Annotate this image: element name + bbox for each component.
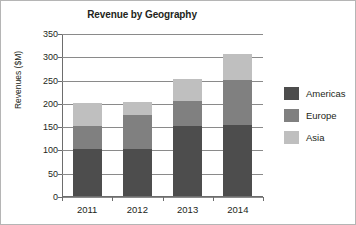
- y-axis-line: [62, 34, 63, 197]
- legend-swatch-icon: [284, 87, 299, 100]
- chart-legend: AmericasEuropeAsia: [284, 82, 346, 148]
- bar-segment-europe[interactable]: [173, 101, 202, 127]
- bar-segment-americas[interactable]: [173, 126, 202, 196]
- chart-figure: Revenue by Geography Revenues ($M) 05010…: [0, 0, 356, 225]
- x-tick-mark: [62, 197, 63, 201]
- x-tick-mark: [112, 197, 113, 201]
- bar-segment-asia[interactable]: [223, 54, 252, 79]
- y-axis-title: Revenues ($M): [13, 25, 23, 135]
- bar-segment-asia[interactable]: [73, 103, 102, 126]
- y-tick-mark: [58, 34, 62, 35]
- y-tick-mark: [58, 57, 62, 58]
- y-tick-label: 100: [43, 145, 58, 155]
- bar-segment-europe[interactable]: [123, 115, 152, 150]
- legend-label: Europe: [306, 110, 337, 121]
- y-tick-mark: [58, 174, 62, 175]
- y-tick-label: 250: [43, 76, 58, 86]
- x-tick-mark: [213, 197, 214, 201]
- legend-item-europe[interactable]: Europe: [284, 104, 346, 126]
- bar-segment-europe[interactable]: [73, 126, 102, 149]
- legend-label: Asia: [306, 132, 324, 143]
- bar-segment-americas[interactable]: [73, 149, 102, 196]
- legend-item-americas[interactable]: Americas: [284, 82, 346, 104]
- bar-stack[interactable]: [223, 33, 252, 196]
- legend-swatch-icon: [284, 109, 299, 122]
- y-tick-label: 50: [48, 169, 58, 179]
- x-tick-mark: [263, 197, 264, 201]
- plot-area: 050100150200250300350 2011201220132014: [62, 34, 263, 197]
- x-tick-label: 2014: [227, 204, 248, 215]
- bar-segment-asia[interactable]: [173, 79, 202, 100]
- y-tick-label: 350: [43, 29, 58, 39]
- bar-segment-asia[interactable]: [123, 102, 152, 115]
- legend-label: Americas: [306, 88, 346, 99]
- y-tick-label: 300: [43, 52, 58, 62]
- legend-item-asia[interactable]: Asia: [284, 126, 346, 148]
- x-tick-label: 2012: [127, 204, 148, 215]
- bar-segment-americas[interactable]: [223, 125, 252, 196]
- legend-swatch-icon: [284, 131, 299, 144]
- bar-segment-americas[interactable]: [123, 149, 152, 196]
- y-tick-mark: [58, 104, 62, 105]
- bar-stack[interactable]: [123, 33, 152, 196]
- y-tick-mark: [58, 127, 62, 128]
- x-tick-label: 2013: [177, 204, 198, 215]
- x-tick-mark: [163, 197, 164, 201]
- y-tick-label: 150: [43, 122, 58, 132]
- chart-title: Revenue by Geography: [1, 9, 283, 20]
- y-tick-label: 0: [53, 192, 58, 202]
- bar-segment-europe[interactable]: [223, 80, 252, 126]
- y-tick-mark: [58, 150, 62, 151]
- x-tick-label: 2011: [77, 204, 97, 215]
- y-tick-label: 200: [43, 99, 58, 109]
- y-tick-mark: [58, 81, 62, 82]
- bar-stack[interactable]: [73, 33, 102, 196]
- bar-stack[interactable]: [173, 33, 202, 196]
